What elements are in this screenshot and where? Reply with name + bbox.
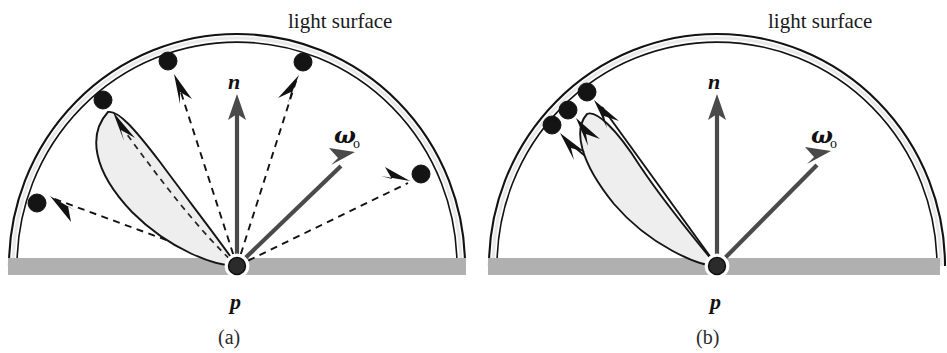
sample-dot-a-3 — [159, 52, 177, 70]
brdf-lobe-a — [96, 112, 237, 266]
omega-o-subscript-b: o — [830, 136, 837, 151]
sample-ray-a-5 — [237, 183, 408, 266]
brdf-lobe-shape-b — [580, 113, 717, 266]
shading-point-a — [225, 254, 249, 278]
light-surface-label-a: light surface — [288, 9, 392, 33]
sample-dot-a-4 — [294, 53, 312, 71]
sample-dot-b-2 — [559, 101, 577, 119]
brdf-lobe-b — [580, 113, 717, 266]
sample-dot-b-3 — [578, 83, 596, 101]
sample-dot-a-2 — [94, 91, 112, 109]
brdf-lobe-shape-a — [96, 112, 237, 266]
omega-o-subscript-a: o — [353, 136, 360, 151]
omega-o-label-a: ω o — [334, 121, 360, 151]
omega-o-vector-a — [237, 148, 355, 266]
caption-a: (a) — [218, 326, 240, 349]
panel-b: light surface n ω o p (b) — [474, 0, 947, 353]
omega-o-arrowhead-a — [329, 148, 355, 165]
omega-o-vector-b — [717, 147, 831, 266]
arrowhead-a-5 — [381, 167, 410, 181]
omega-o-arrowhead-b — [805, 147, 831, 164]
sample-dot-a-1 — [28, 194, 46, 212]
shading-point-label-a: p — [228, 289, 241, 314]
arrowhead-a-4 — [278, 75, 299, 103]
normal-vector-a — [228, 94, 246, 266]
shading-point-core-a — [229, 258, 246, 275]
caption-b: (b) — [696, 326, 719, 349]
shading-point-b — [705, 254, 729, 278]
normal-label-a: n — [228, 69, 240, 94]
omega-o-label-b: ω o — [811, 121, 837, 151]
panel-a: light surface n ω o p (a) — [0, 0, 474, 353]
normal-vector-b — [708, 94, 726, 266]
light-surface-label-b: light surface — [768, 9, 872, 33]
sample-dot-a-5 — [412, 165, 430, 183]
omega-o-shaft-b — [717, 165, 817, 266]
shading-point-label-b: p — [708, 289, 721, 314]
figure-root: light surface n ω o p (a) — [0, 0, 947, 353]
normal-label-b: n — [708, 69, 720, 94]
sample-dot-b-1 — [543, 116, 561, 134]
arrowhead-a-1 — [50, 196, 76, 222]
shading-point-core-b — [709, 258, 726, 275]
